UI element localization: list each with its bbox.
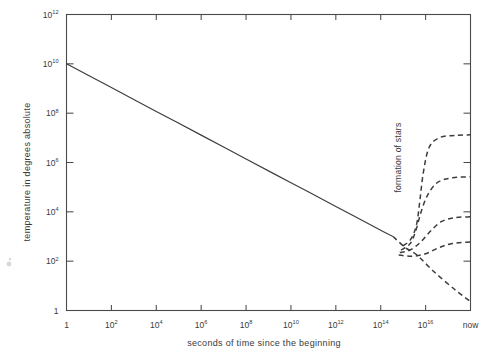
temperature-vs-time-chart: 11021041061081010101210141016now 1012101… [0,0,497,363]
series-line-4 [400,217,471,253]
scan-speck [7,262,12,267]
data-series-layer [67,64,471,302]
y-axis-ticks [67,64,471,261]
y-tick-label: 1012 [43,9,59,20]
axes-border [67,15,471,311]
x-axis-tick-labels: 11021041061081010101210141016now [64,319,479,330]
series-line-0 [67,64,394,237]
y-tick-label: 104 [46,206,59,217]
y-axis-title: temperature in degrees absolute [22,103,32,242]
x-axis-title: seconds of time since the beginning [187,338,341,348]
chart-annotations: formation of stars [393,123,403,193]
y-tick-label: 1 [54,306,59,316]
x-tick-label: 104 [150,319,163,330]
x-tick-label: 1012 [328,319,344,330]
x-tick-label: 1014 [373,319,389,330]
y-axis-tick-labels: 101210101081061041021 [43,9,59,316]
x-axis-ticks [111,15,425,311]
x-tick-label: 106 [195,319,208,330]
y-tick-label: 106 [46,157,59,168]
x-tick-label: 102 [105,319,118,330]
series-line-1 [393,237,470,302]
y-tick-label: 102 [46,256,59,267]
x-tick-label: now [463,320,479,330]
scan-speck [9,258,12,261]
x-tick-label: 108 [240,319,253,330]
y-tick-label: 1010 [43,58,59,69]
plot-frame [67,15,471,311]
x-tick-label: 1010 [283,319,299,330]
x-tick-label: 1016 [418,319,434,330]
figure-container: 11021041061081010101210141016now 1012101… [0,0,497,363]
series-line-2 [403,135,470,246]
annotation-formation-of-stars: formation of stars [393,123,403,193]
y-tick-label: 108 [46,108,59,119]
x-tick-label: 1 [64,320,69,330]
scan-artifacts [7,258,12,267]
